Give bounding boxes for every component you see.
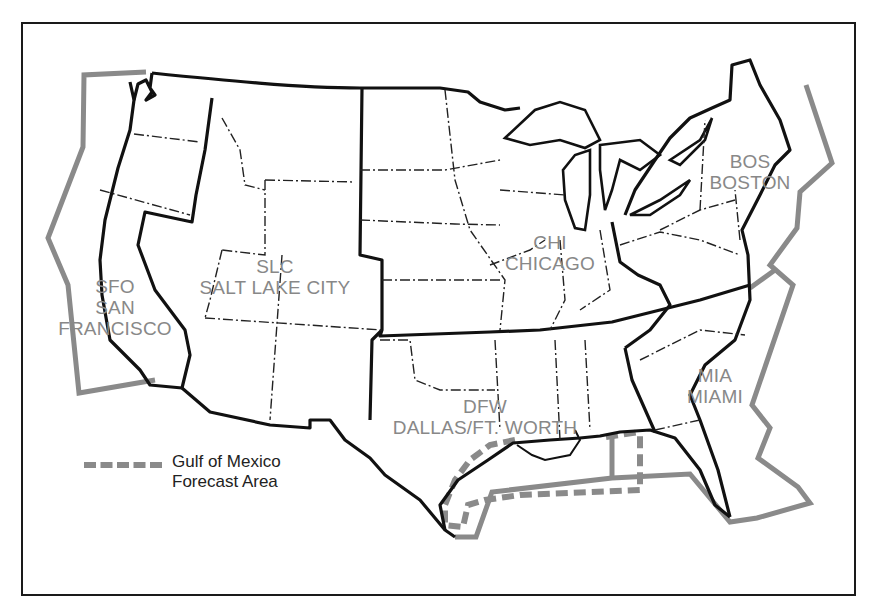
region-code: SLC bbox=[175, 256, 375, 277]
region-name: MIAMI bbox=[670, 386, 760, 407]
region-name: CHICAGO bbox=[490, 253, 610, 274]
region-code: CHI bbox=[490, 232, 610, 253]
region-label-dfw: DFW DALLAS/FT. WORTH bbox=[380, 396, 590, 438]
legend-text: Gulf of Mexico Forecast Area bbox=[172, 452, 281, 492]
region-name: SAN bbox=[55, 297, 175, 318]
region-name: DALLAS/FT. WORTH bbox=[380, 417, 590, 438]
region-label-mia: MIA MIAMI bbox=[670, 365, 760, 407]
region-code: MIA bbox=[670, 365, 760, 386]
map-legend: Gulf of Mexico Forecast Area bbox=[84, 452, 281, 492]
region-code: SFO bbox=[55, 276, 175, 297]
region-label-bos: BOS BOSTON bbox=[695, 151, 805, 193]
region-label-sfo: SFO SAN FRANCISCO bbox=[55, 276, 175, 339]
region-label-slc: SLC SALT LAKE CITY bbox=[175, 256, 375, 298]
region-code: BOS bbox=[695, 151, 805, 172]
region-label-chi: CHI CHICAGO bbox=[490, 232, 610, 274]
region-name-2: FRANCISCO bbox=[55, 318, 175, 339]
dashed-line-swatch-icon bbox=[84, 462, 162, 468]
legend-line-2: Forecast Area bbox=[172, 472, 281, 492]
region-code: DFW bbox=[380, 396, 590, 417]
region-name: SALT LAKE CITY bbox=[175, 277, 375, 298]
legend-line-1: Gulf of Mexico bbox=[172, 452, 281, 472]
great-lakes bbox=[505, 102, 712, 230]
region-name: BOSTON bbox=[695, 172, 805, 193]
